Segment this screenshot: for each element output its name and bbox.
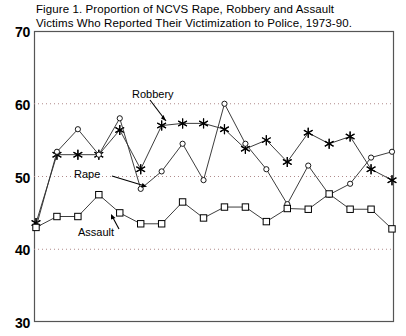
data-point-square [33,224,39,230]
data-series-layer [32,101,397,232]
annotation-assault: Assault [78,226,114,238]
data-point-asterisk [346,131,355,141]
data-point-circle [222,101,227,106]
data-point-circle [348,181,353,186]
data-point-circle [54,149,59,154]
data-point-asterisk [325,139,334,149]
data-point-circle [117,116,122,121]
data-point-square [326,191,332,197]
data-point-square [284,205,290,211]
data-point-square [221,204,227,210]
data-point-square [179,199,185,205]
data-point-circle [389,149,394,154]
data-point-asterisk [367,164,376,174]
data-point-asterisk [388,175,397,185]
data-point-square [347,206,353,212]
data-point-square [158,221,164,227]
data-point-square [305,206,311,212]
data-point-circle [159,169,164,174]
data-point-circle [201,178,206,183]
chart-svg [0,0,406,336]
data-point-square [389,226,395,232]
annotation-rape: Rape [74,168,100,180]
annotation-robbery: Robbery [132,88,174,100]
data-point-circle [306,163,311,168]
data-point-square [368,206,374,212]
data-point-circle [264,167,269,172]
data-point-circle [180,141,185,146]
data-point-asterisk [220,124,229,134]
data-point-square [117,210,123,216]
chart-plot-area: 70 60 50 40 30 Robbery Rape Assault [0,0,406,336]
data-point-square [54,213,60,219]
series-line [36,104,392,228]
data-point-square [263,218,269,224]
data-point-asterisk [136,164,145,174]
data-point-circle [243,141,248,146]
data-point-square [96,191,102,197]
data-point-circle [96,152,101,157]
data-point-circle [368,155,373,160]
data-point-square [200,215,206,221]
data-point-square [138,221,144,227]
data-point-circle [75,127,80,132]
series-line [36,194,392,229]
data-point-square [242,204,248,210]
data-point-square [75,213,81,219]
series-rape [33,101,394,230]
